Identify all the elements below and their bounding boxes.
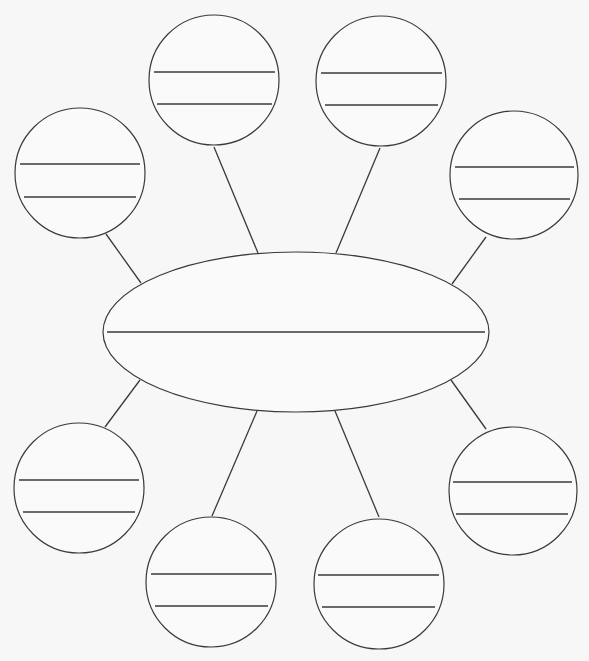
bubble-circle[interactable] [149,15,279,145]
bubble-circle[interactable] [314,519,444,649]
central-ellipse-group [103,252,489,412]
bubble-circle[interactable] [14,423,144,553]
bubble-node-top-left[interactable] [15,108,145,238]
bubble-node-top-center-left[interactable] [149,15,279,145]
bubble-circle[interactable] [146,517,276,647]
bubble-node-bottom-center-left[interactable] [146,517,276,647]
bubble-node-top-right[interactable] [450,111,578,239]
bubble-circle[interactable] [449,427,577,555]
bubble-circle[interactable] [316,16,446,146]
bubble-circle[interactable] [450,111,578,239]
bubble-node-bottom-left[interactable] [14,423,144,553]
bubble-map-diagram [0,0,589,661]
bubble-node-top-center-right[interactable] [316,16,446,146]
bubble-circle[interactable] [15,108,145,238]
bubble-node-bottom-right[interactable] [449,427,577,555]
bubble-node-bottom-center-right[interactable] [314,519,444,649]
